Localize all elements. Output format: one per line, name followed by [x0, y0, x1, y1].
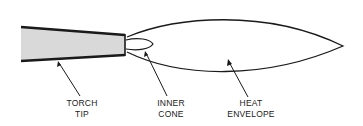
inner-cone-label: INNER CONE	[157, 98, 184, 120]
inner-cone-label-line1: INNER	[157, 98, 184, 109]
inner-cone-label-line2: CONE	[157, 109, 184, 120]
torch-tip-leader-line	[59, 63, 80, 96]
heat-envelope-shape	[127, 20, 343, 72]
heat-envelope-leader-line	[229, 62, 248, 97]
heat-envelope-arrowhead-icon	[227, 59, 232, 66]
heat-envelope-label-line2: ENVELOPE	[227, 109, 274, 120]
inner-cone-shape	[126, 39, 153, 50]
heat-envelope-label-line1: HEAT	[227, 98, 274, 109]
torch-tip-label-line2: TIP	[66, 109, 97, 120]
torch-tip-label-line1: TORCH	[66, 98, 97, 109]
torch-tip-label: TORCH TIP	[66, 98, 97, 120]
inner-cone-leader-line	[146, 53, 167, 96]
heat-envelope-label: HEAT ENVELOPE	[227, 98, 274, 120]
